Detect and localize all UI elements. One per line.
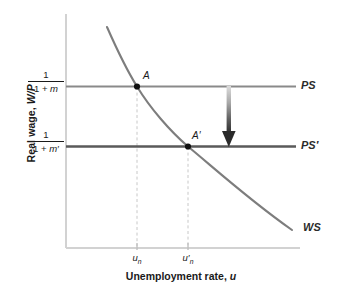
ytick-psprime-denominator: 1 + m′: [28, 142, 64, 154]
ytick-label-ps-wage: 1 1 + m: [28, 69, 64, 94]
point-a-marker: [134, 83, 140, 89]
curve-label-psprime: PS′: [301, 139, 318, 151]
x-axis-title-prefix: Unemployment rate,: [126, 270, 230, 282]
curve-label-ws: WS: [303, 221, 321, 233]
xtick-unprime-variable: u′: [183, 252, 190, 263]
shift-arrow-icon: [222, 86, 236, 147]
xtick-label-unprime: u′n: [175, 252, 201, 265]
ytick-ps-denominator-prefix: 1 +: [34, 83, 50, 94]
ytick-psprime-denominator-variable: m′: [49, 143, 59, 154]
ytick-psprime-denominator-prefix: 1 +: [33, 143, 49, 154]
xtick-unprime-subscript: n: [190, 258, 194, 265]
ytick-ps-numerator: 1: [28, 69, 64, 82]
point-aprime-marker: [185, 143, 191, 149]
ytick-psprime-numerator: 1: [28, 129, 64, 142]
point-label-aprime: A′: [192, 130, 201, 141]
x-axis-title-variable: u: [230, 270, 236, 282]
xtick-un-subscript: n: [138, 258, 142, 265]
curve-label-ps: PS: [301, 79, 316, 91]
point-label-a: A: [143, 70, 150, 81]
ws-curve: [107, 27, 292, 230]
ytick-ps-denominator: 1 + m: [28, 82, 64, 94]
ytick-label-psprime-wage: 1 1 + m′: [28, 129, 64, 154]
chart-figure: Real wage, W/P 1 1 + m 1 1 + m′ un u′n U…: [0, 0, 342, 291]
xtick-label-un: un: [124, 252, 150, 265]
x-axis-title: Unemployment rate, u: [66, 271, 296, 282]
ytick-ps-denominator-variable: m: [50, 83, 58, 94]
